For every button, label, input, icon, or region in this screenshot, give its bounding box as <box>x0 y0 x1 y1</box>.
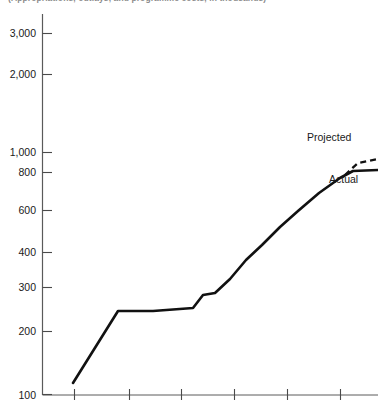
ytick-label-600: 600 <box>0 204 36 216</box>
series-line-actual <box>73 170 378 383</box>
ytick-label-200: 200 <box>0 325 36 337</box>
plot-area <box>0 0 378 405</box>
ytick-label-2000: 2,000 <box>0 68 36 80</box>
ytick-label-1000: 1,000 <box>0 146 36 158</box>
series-annotation-projected: Projected <box>307 131 351 143</box>
log-scale-line-chart: (Appropriations, outlays, and programme … <box>0 0 378 405</box>
series-annotation-actual: Actual <box>329 173 358 185</box>
y-tick-marks <box>43 34 53 395</box>
ytick-label-300: 300 <box>0 281 36 293</box>
ytick-label-400: 400 <box>0 246 36 258</box>
ytick-label-3000: 3,000 <box>0 27 36 39</box>
ytick-label-800: 800 <box>0 166 36 178</box>
ytick-label-100: 100 <box>0 389 36 401</box>
